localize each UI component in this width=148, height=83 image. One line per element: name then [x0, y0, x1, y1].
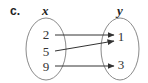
range-label: y [117, 3, 123, 19]
domain-label: x [42, 3, 49, 19]
mapping-svg: 2 5 9 1 3 [0, 0, 148, 83]
range-value-3: 3 [118, 57, 125, 72]
mapping-diagram: c. x y 2 5 9 1 3 [0, 0, 148, 83]
domain-value-9: 9 [43, 59, 50, 74]
arrow-5-to-1 [55, 41, 114, 51]
range-value-1: 1 [118, 29, 125, 44]
part-label: c. [10, 4, 20, 18]
domain-value-5: 5 [43, 44, 50, 59]
domain-value-2: 2 [43, 27, 50, 42]
